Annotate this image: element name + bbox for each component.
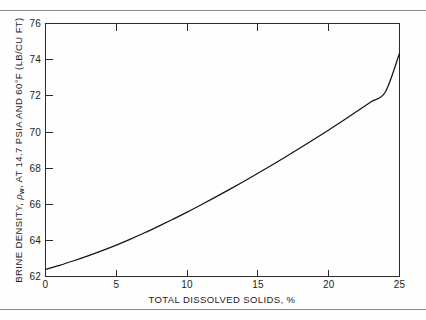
x-axis-tick-labels: 0 5 10 15 20 25 [43,279,406,290]
x-tick-label: 20 [323,279,335,290]
x-tick-label: 10 [181,279,193,290]
y-tick-label: 68 [29,163,41,174]
plot-frame [46,24,400,277]
brine-density-line-chart: 76 74 72 70 68 66 64 62 [0,12,426,307]
brine-density-curve [46,53,400,269]
y-tick-label: 64 [29,235,41,246]
x-axis-ticks-bottom [46,270,400,277]
y-tick-label: 76 [29,18,41,29]
y-axis-label: BRINE DENSITY,ρw, AT 14.7 PSIA AND 60°F … [13,17,25,282]
y-tick-label: 74 [29,54,41,65]
x-tick-label: 5 [113,279,119,290]
bottom-divider-rule [0,309,426,310]
y-axis-tick-labels: 76 74 72 70 68 66 64 62 [29,18,41,282]
x-tick-label: 25 [394,279,406,290]
y-tick-label: 62 [29,271,41,282]
x-tick-label: 0 [43,279,49,290]
y-tick-label: 72 [29,90,41,101]
y-axis-label-suffix: , AT 14.7 PSIA AND 60°F (LB/CU FT) [13,17,24,188]
y-tick-label: 66 [29,199,41,210]
top-divider-rule [0,10,426,11]
y-axis-ticks [46,24,53,277]
svg-text:BRINE DENSITY,ρw, AT 14.7 PSIA: BRINE DENSITY,ρw, AT 14.7 PSIA AND 60°F … [13,17,25,282]
x-axis-ticks-top [116,24,328,31]
figure-page: 76 74 72 70 68 66 64 62 [0,0,426,320]
y-axis-label-prefix: BRINE DENSITY, [13,203,24,283]
x-axis-label: TOTAL DISSOLVED SOLIDS, % [149,294,296,305]
x-tick-label: 15 [252,279,264,290]
y-tick-label: 70 [29,127,41,138]
chart-figure: 76 74 72 70 68 66 64 62 [0,12,426,307]
